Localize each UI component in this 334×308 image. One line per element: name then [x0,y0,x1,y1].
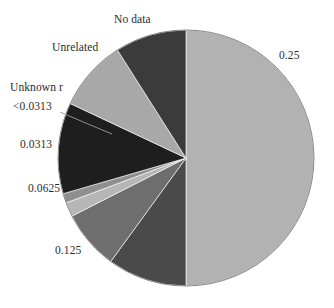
slice-label-125: 0.125 [55,244,81,257]
pie-chart-canvas [0,0,334,308]
slice-label-25: 0.25 [279,49,300,62]
slice-label-0625: 0.0625 [28,182,60,195]
slice-label-lt-0313: <0.0313 [13,100,52,113]
slice-label-0313: 0.0313 [20,138,52,151]
pie-slice[interactable] [186,30,314,286]
slice-label-unrelated: Unrelated [52,41,98,54]
slice-label-no-data: No data [114,13,151,26]
pie-slices-group [58,30,314,286]
pie-chart-figure: No data Unrelated Unknown r <0.0313 0.03… [0,0,334,308]
slice-label-unknown-r: Unknown r [10,81,63,94]
